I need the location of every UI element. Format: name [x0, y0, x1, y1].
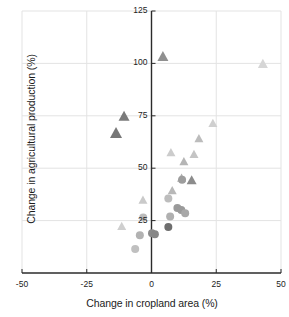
data-point-triangle [168, 186, 177, 194]
data-point-triangle [157, 51, 168, 61]
data-point-circle [164, 195, 172, 203]
data-point-circle [131, 245, 139, 253]
x-tick-label: 50 [266, 279, 289, 289]
scatter-chart: -50-2502550 255075100125 Change in agric… [0, 0, 289, 317]
data-point-circle [181, 209, 189, 217]
data-point-circle [178, 176, 186, 184]
plot-canvas [0, 0, 289, 317]
data-point-circle [136, 231, 144, 239]
x-tick-label: 0 [137, 279, 167, 289]
data-point-circle [151, 230, 159, 238]
data-point-circle [164, 223, 172, 231]
data-point-triangle [189, 150, 198, 158]
y-tick-label: 100 [118, 57, 148, 67]
x-tick-label: 25 [201, 279, 231, 289]
x-tick-label: -50 [7, 279, 37, 289]
plot-area [0, 0, 289, 317]
y-tick-label: 75 [118, 110, 148, 120]
data-point-triangle [187, 175, 197, 184]
x-tick-label: -25 [72, 279, 102, 289]
y-tick-label: 125 [118, 5, 148, 15]
data-point-triangle [138, 196, 147, 204]
y-axis-title: Change in agricultural production (%) [25, 34, 37, 244]
data-point-triangle [194, 134, 203, 142]
data-point-triangle [166, 148, 175, 156]
data-point-triangle [110, 127, 122, 138]
data-point-circle [166, 212, 174, 220]
data-point-triangle [179, 157, 188, 165]
y-tick-label: 25 [118, 215, 148, 225]
y-tick-label: 50 [118, 162, 148, 172]
x-axis-title: Change in cropland area (%) [18, 297, 286, 309]
